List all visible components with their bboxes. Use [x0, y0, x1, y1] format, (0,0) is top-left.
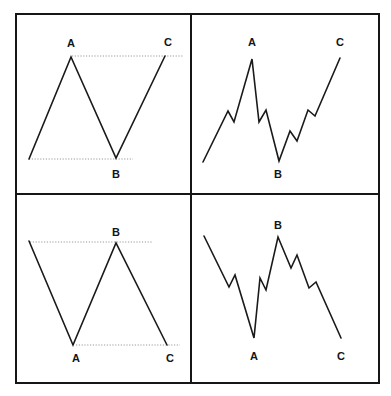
panel-bottom-left: BAC	[29, 226, 180, 364]
point-label-a: A	[72, 352, 80, 364]
point-label-b: B	[112, 168, 120, 180]
abc-correction-diagram: ACBACBBACBAC	[0, 0, 391, 396]
point-label-c: C	[337, 350, 345, 362]
point-label-c: C	[336, 36, 344, 48]
point-label-a: A	[67, 37, 75, 49]
detailed-wave-line	[203, 58, 340, 162]
simple-wave-line	[29, 241, 167, 345]
point-label-b: B	[274, 219, 282, 231]
panel-bottom-right: BAC	[204, 219, 345, 362]
simple-wave-line	[29, 56, 165, 159]
panels-layer: ACBACBBACBAC	[29, 36, 345, 364]
panel-top-right: ACB	[203, 36, 344, 180]
outer-frame	[16, 14, 379, 383]
point-label-c: C	[164, 36, 172, 48]
detailed-wave-line	[204, 236, 341, 338]
point-label-b: B	[112, 226, 120, 238]
point-label-a: A	[250, 350, 258, 362]
point-label-b: B	[274, 168, 282, 180]
panel-top-left: ACB	[29, 36, 183, 180]
point-label-c: C	[166, 352, 174, 364]
point-label-a: A	[248, 36, 256, 48]
